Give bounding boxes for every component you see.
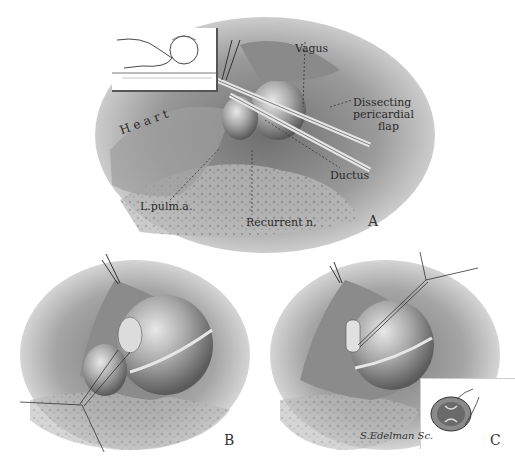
panel-letter-b: B [224,432,234,448]
panel-b-illustration [20,254,250,452]
panel-letter-c: C [490,432,501,448]
label-dissecting-line3: flap [378,121,399,133]
label-l-pulm-a: L.pulm.a. [140,201,192,213]
panel-letter-a: A [368,213,378,229]
label-ductus: Ductus [330,170,369,182]
artist-signature: S.Edelman Sc. [360,430,433,441]
patient-sketch-icon [112,28,216,90]
patient-position-inset [112,28,218,92]
ductus-cross-section-inset [420,378,515,449]
ductus-ring-icon [421,379,515,449]
label-vagus: Vagus [295,43,328,55]
label-recurrent-n: Recurrent n. [246,217,317,229]
